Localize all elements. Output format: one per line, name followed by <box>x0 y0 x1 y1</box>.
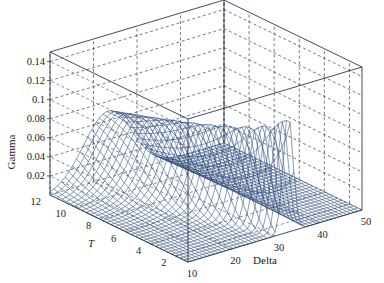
z-tick-label: 0.08 <box>27 113 45 124</box>
z-tick-label: 0.12 <box>27 75 45 86</box>
x-tick-label: 30 <box>274 242 285 253</box>
y-tick-label: 10 <box>56 208 67 219</box>
y-tick-label: 4 <box>136 245 142 256</box>
y-tick-label: 12 <box>31 196 42 207</box>
z-tick-label: 0.04 <box>27 151 46 162</box>
mesh-surface <box>50 111 362 262</box>
x-tick-label: 50 <box>361 216 372 227</box>
y-tick-label: 6 <box>111 233 116 244</box>
y-tick-label: 8 <box>86 220 91 231</box>
z-tick-label: 0.14 <box>27 56 46 67</box>
z-tick-label: 0.02 <box>27 170 45 181</box>
z-tick-label: 0.1 <box>32 94 45 105</box>
x-axis-label: Delta <box>253 254 277 266</box>
surface-plot: 0.140.120.10.080.060.040.021210864210203… <box>0 0 384 283</box>
z-axis-label: Gamma <box>5 134 17 169</box>
x-tick-label: 10 <box>187 268 198 279</box>
x-tick-label: 40 <box>317 229 328 240</box>
z-tick-label: 0.06 <box>27 132 45 143</box>
x-tick-label: 20 <box>230 255 241 266</box>
y-axis-label: T <box>88 237 95 249</box>
y-tick-label: 2 <box>161 257 166 268</box>
